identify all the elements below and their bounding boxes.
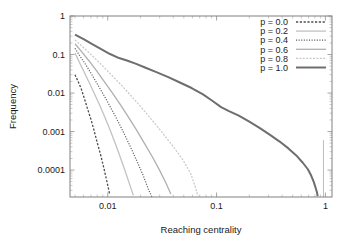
y-tick-label-0: 1 [60,11,65,21]
chart-figure: 0.010.1110.10.010.0010.0001Reaching cent… [0,0,345,241]
x-tick-label-0: 0.01 [99,201,117,211]
plot-frame [70,16,332,197]
y-axis-title: Frequency [7,84,18,129]
x-tick-label-2: 1 [323,201,328,211]
series-line-1 [75,53,133,195]
series-line-0 [75,75,110,194]
y-tick-label-1: 0.1 [52,50,65,60]
series-line-3 [75,44,171,194]
series-line-2 [75,48,152,197]
legend-label-5: p = 1.0 [260,63,288,73]
y-tick-label-4: 0.0001 [37,165,65,175]
x-axis-title: Reaching centrality [161,224,242,235]
y-tick-label-2: 0.01 [47,88,65,98]
y-tick-label-3: 0.001 [42,127,65,137]
log-log-line-chart: 0.010.1110.10.010.0010.0001Reaching cent… [0,0,345,241]
x-tick-label-1: 0.1 [210,201,223,211]
